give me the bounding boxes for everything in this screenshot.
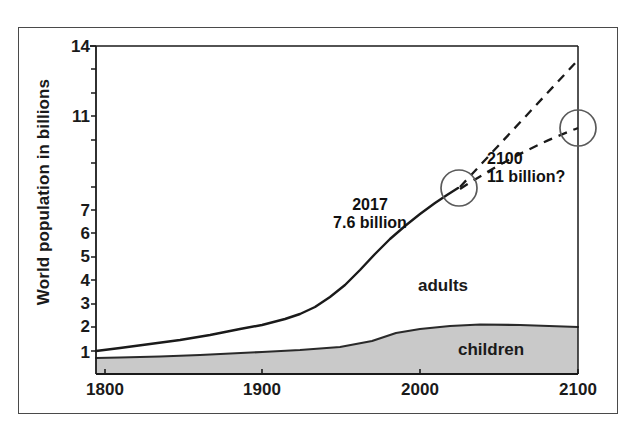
series-label-adults: adults	[418, 276, 468, 296]
series-label-children: children	[458, 340, 524, 360]
annotation-2017: 2017 7.6 billion	[300, 196, 440, 232]
population-chart-figure: World population in billions 14 11 7 6 5…	[0, 0, 639, 438]
annotation-2100-value: 11 billion?	[487, 168, 617, 186]
annotation-2017-year: 2017	[300, 196, 440, 214]
annotation-2017-value: 7.6 billion	[300, 214, 440, 232]
annotation-2100: 2100 11 billion?	[487, 150, 617, 186]
annotation-2100-year: 2100	[487, 150, 617, 168]
